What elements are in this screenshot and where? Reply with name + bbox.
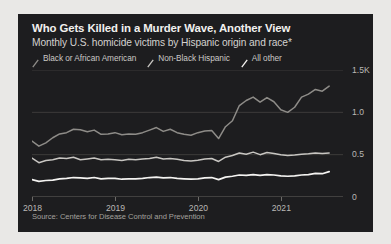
- legend-slash-icon: [241, 54, 248, 63]
- legend-slash-icon: [147, 54, 154, 63]
- chart-title: Who Gets Killed in a Murder Wave, Anothe…: [32, 22, 290, 34]
- legend-item-2[interactable]: All other: [241, 53, 282, 63]
- x-axis-tick-label: 2020: [189, 203, 208, 213]
- y-axis-tick-label: 0: [352, 192, 357, 202]
- x-axis-tick-label: 2019: [106, 203, 125, 213]
- chart-figure: Who Gets Killed in a Murder Wave, Anothe…: [0, 0, 391, 244]
- series-line-0: [32, 86, 329, 146]
- x-axis-tick-mark: [198, 197, 199, 201]
- chart-legend: Black or African AmericanNon-Black Hispa…: [32, 53, 282, 63]
- legend-item-0[interactable]: Black or African American: [32, 53, 136, 63]
- x-axis-tick-label: 2021: [272, 203, 291, 213]
- x-axis-tick-mark: [115, 197, 116, 201]
- y-axis-tick-label: 1.0: [352, 107, 364, 117]
- legend-label: Black or African American: [43, 53, 136, 63]
- legend-item-1[interactable]: Non-Black Hispanic: [147, 53, 230, 63]
- y-axis-tick-label: 1.5K: [352, 65, 370, 75]
- series-line-1: [32, 152, 329, 163]
- x-axis-tick-label: 2018: [23, 203, 42, 213]
- plot-area: [32, 70, 343, 197]
- series-line-2: [32, 172, 329, 182]
- y-axis-tick-label: 0.5: [352, 149, 364, 159]
- x-axis-tick-mark: [32, 197, 33, 201]
- x-axis-tick-mark: [281, 197, 282, 201]
- legend-label: All other: [252, 53, 282, 63]
- legend-slash-icon: [32, 54, 39, 63]
- plot-svg: [32, 70, 343, 197]
- chart-panel: Who Gets Killed in a Murder Wave, Anothe…: [18, 14, 373, 232]
- legend-label: Non-Black Hispanic: [158, 53, 230, 63]
- chart-subtitle: Monthly U.S. homicide victims by Hispani…: [32, 37, 292, 48]
- chart-source: Source: Centers for Disease Control and …: [32, 212, 205, 221]
